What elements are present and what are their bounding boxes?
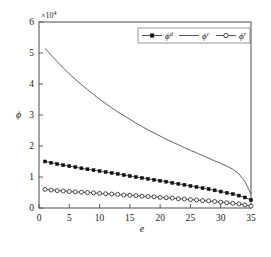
data-point-marker — [61, 189, 65, 193]
data-point-marker — [207, 199, 211, 203]
data-point-marker — [104, 192, 108, 196]
data-point-marker — [213, 189, 216, 192]
x-tick-label: 35 — [246, 213, 256, 223]
chart-canvas: ×104 ϕ e 0123456 05101520253035 ϕdϕcϕr — [0, 0, 271, 257]
y-tick-label: 0 — [29, 203, 34, 213]
x-tick-label: 15 — [125, 213, 135, 223]
data-point-marker — [68, 165, 71, 168]
data-point-marker — [98, 170, 101, 173]
data-point-marker — [201, 199, 205, 203]
data-point-marker — [195, 185, 198, 188]
x-tick-label: 0 — [37, 213, 42, 223]
plot-frame — [39, 22, 251, 208]
data-point-marker — [128, 175, 131, 178]
data-point-marker — [110, 171, 113, 174]
data-point-marker — [170, 196, 174, 200]
data-point-marker — [134, 194, 138, 198]
x-tick-label: 5 — [67, 213, 72, 223]
data-point-marker — [231, 201, 235, 205]
data-point-marker — [116, 172, 119, 175]
data-point-marker — [110, 192, 114, 196]
data-point-marker — [50, 161, 53, 164]
data-point-marker — [183, 183, 186, 186]
data-point-marker — [98, 191, 102, 195]
data-point-marker — [134, 176, 137, 179]
data-point-marker — [128, 193, 132, 197]
data-point-marker — [56, 162, 59, 165]
data-point-marker — [49, 188, 53, 192]
data-point-marker — [116, 192, 120, 196]
data-point-marker — [165, 180, 168, 183]
data-point-marker — [207, 188, 210, 191]
data-point-marker — [243, 203, 247, 207]
data-point-marker — [122, 193, 126, 197]
data-point-marker — [158, 195, 162, 199]
data-point-marker — [237, 202, 241, 206]
y-axis-title: ϕ — [16, 109, 21, 120]
data-point-marker — [86, 168, 89, 171]
y-axis-multiplier: ×104 — [41, 10, 57, 20]
data-point-marker — [250, 198, 253, 201]
data-point-marker — [177, 182, 180, 185]
y-tick-label: 1 — [29, 172, 34, 182]
data-point-marker — [140, 194, 144, 198]
data-point-marker — [164, 196, 168, 200]
data-point-marker — [152, 195, 156, 199]
data-point-marker — [249, 204, 253, 208]
x-tick-label: 10 — [95, 213, 105, 223]
y-tick-label: 3 — [29, 110, 34, 120]
chart-legend: ϕdϕcϕr — [138, 28, 250, 43]
y-tick-label: 6 — [29, 17, 34, 27]
y-axis-multiplier-prefix: ×10 — [41, 11, 54, 20]
data-point-marker — [176, 197, 180, 201]
data-point-marker — [194, 198, 198, 202]
data-point-marker — [219, 200, 223, 204]
legend-marker — [151, 34, 154, 37]
data-point-marker — [74, 166, 77, 169]
legend-marker — [224, 33, 228, 37]
data-point-marker — [44, 160, 47, 163]
data-point-marker — [146, 195, 150, 199]
data-point-marker — [104, 171, 107, 174]
data-point-marker — [231, 193, 234, 196]
x-axis-title: e — [140, 223, 145, 234]
data-point-marker — [188, 198, 192, 202]
data-point-marker — [43, 187, 47, 191]
data-point-marker — [62, 164, 65, 167]
x-tick-label: 20 — [155, 213, 165, 223]
y-tick-label: 5 — [29, 48, 34, 58]
data-point-marker — [182, 197, 186, 201]
data-point-marker — [55, 189, 59, 193]
x-tick-label: 25 — [186, 213, 196, 223]
y-tick-label: 2 — [29, 141, 34, 151]
data-point-marker — [147, 177, 150, 180]
data-point-marker — [92, 191, 96, 195]
data-point-marker — [219, 190, 222, 193]
data-point-marker — [171, 181, 174, 184]
data-point-marker — [122, 174, 125, 177]
data-point-marker — [73, 190, 77, 194]
data-point-marker — [67, 190, 71, 194]
data-point-marker — [153, 178, 156, 181]
data-point-marker — [159, 179, 162, 182]
data-point-marker — [80, 167, 83, 170]
y-tick-label: 4 — [29, 79, 34, 89]
y-axis-multiplier-exponent: 4 — [54, 10, 57, 16]
x-tick-label: 30 — [216, 213, 226, 223]
legend-label-superscript: c — [207, 31, 210, 37]
data-point-marker — [79, 190, 83, 194]
data-point-marker — [225, 201, 229, 205]
figure-container: ×104 ϕ e 0123456 05101520253035 ϕdϕcϕr — [0, 0, 271, 257]
data-point-marker — [201, 187, 204, 190]
data-point-marker — [213, 199, 217, 203]
data-point-marker — [92, 169, 95, 172]
data-point-marker — [237, 194, 240, 197]
data-point-marker — [140, 176, 143, 179]
data-point-marker — [225, 191, 228, 194]
data-point-marker — [243, 196, 246, 199]
data-point-marker — [85, 191, 89, 195]
data-point-marker — [189, 184, 192, 187]
